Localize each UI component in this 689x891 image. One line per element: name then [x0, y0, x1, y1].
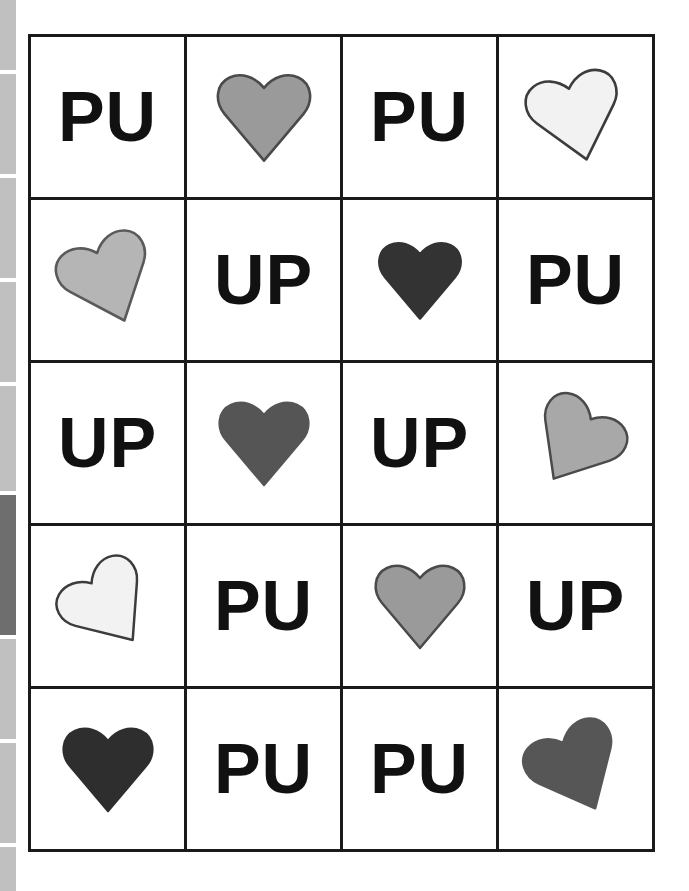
cell-label: PU: [370, 82, 469, 152]
page-strip-segment[interactable]: [0, 386, 16, 491]
cell-label: PU: [58, 82, 157, 152]
page-strip-segment[interactable]: [0, 74, 16, 174]
cell-label: PU: [214, 571, 313, 641]
heart-icon: [374, 234, 466, 326]
page-strip-segment-active[interactable]: [0, 495, 16, 635]
cell-label: UP: [214, 245, 313, 315]
cell-label: UP: [370, 408, 469, 478]
heart-graphic: [40, 212, 175, 347]
cell-label: PU: [214, 734, 313, 804]
heart-graphic: [212, 65, 316, 169]
grid-cell-text[interactable]: UP: [343, 363, 499, 526]
heart-graphic: [370, 556, 470, 656]
page-strip-segment[interactable]: [0, 282, 16, 382]
heart-icon: [58, 719, 158, 819]
grid-cell-heart[interactable]: [187, 363, 343, 526]
grid-cell-heart[interactable]: [31, 526, 187, 689]
grid-cell-heart[interactable]: [31, 200, 187, 363]
heart-icon: [38, 536, 178, 676]
grid-cell-text[interactable]: PU: [31, 37, 187, 200]
heart-icon: [214, 393, 314, 493]
grid-cell-text[interactable]: UP: [187, 200, 343, 363]
grid-cell-heart[interactable]: [187, 37, 343, 200]
grid-cell-text[interactable]: UP: [31, 363, 187, 526]
grid-cell-text[interactable]: PU: [343, 37, 499, 200]
grid-cell-heart[interactable]: [499, 689, 655, 852]
heart-icon: [506, 699, 645, 838]
heart-icon: [212, 65, 316, 169]
heart-icon: [370, 556, 470, 656]
heart-icon: [40, 212, 175, 347]
page-strip-segment[interactable]: [0, 847, 16, 891]
page-strip-segment[interactable]: [0, 743, 16, 843]
heart-graphic: [374, 234, 466, 326]
cell-label: PU: [370, 734, 469, 804]
grid-cell-heart[interactable]: [499, 37, 655, 200]
grid-cell-text[interactable]: PU: [343, 689, 499, 852]
page-strip-segment[interactable]: [0, 178, 16, 278]
grid-cell-text[interactable]: PU: [187, 526, 343, 689]
heart-icon: [512, 54, 638, 180]
heart-graphic: [38, 536, 178, 676]
page-thumbnail-scrollbar[interactable]: [0, 0, 16, 891]
page-strip-gutter: [16, 0, 28, 891]
heart-graphic: [58, 719, 158, 819]
grid-cell-text[interactable]: PU: [187, 689, 343, 852]
cell-label: PU: [526, 245, 625, 315]
page-strip-segment[interactable]: [0, 639, 16, 739]
heart-graphic: [507, 374, 645, 512]
grid-cell-heart[interactable]: [343, 526, 499, 689]
heart-icon: [507, 374, 645, 512]
grid-cell-text[interactable]: PU: [499, 200, 655, 363]
heart-graphic: [214, 393, 314, 493]
cell-label: UP: [58, 408, 157, 478]
page-strip-segment[interactable]: [0, 0, 16, 70]
grid-cell-heart[interactable]: [343, 200, 499, 363]
grid-cell-heart[interactable]: [499, 363, 655, 526]
cell-label: UP: [526, 571, 625, 641]
cards-grid: PUPUUPPUUPUPPUUPPUPU: [28, 34, 655, 852]
heart-graphic: [506, 699, 645, 838]
grid-cell-text[interactable]: UP: [499, 526, 655, 689]
heart-graphic: [512, 54, 638, 180]
grid-cell-heart[interactable]: [31, 689, 187, 852]
